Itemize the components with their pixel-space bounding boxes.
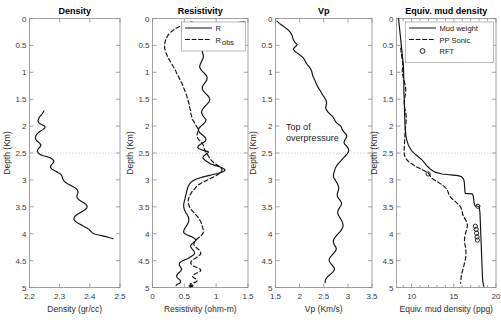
x-tick-label: 2.5	[318, 292, 330, 301]
x-tick-label: 2.5	[114, 292, 126, 301]
y-tick-label: 4	[22, 230, 27, 239]
x-tick-label: 0	[150, 292, 155, 301]
y-tick-label: 3	[268, 176, 273, 185]
legend-label: R	[216, 24, 222, 33]
y-tick-label: 4.5	[15, 257, 27, 266]
y-axis-label: Depth (Km)	[125, 131, 135, 175]
x-tick-label: 2.3	[54, 292, 66, 301]
x-tick-label: 20	[492, 292, 501, 301]
y-axis-label: Depth (Km)	[248, 131, 258, 175]
x-axis-label: Density (gr/cc)	[47, 304, 102, 314]
y-tick-label: 4.5	[261, 257, 273, 266]
y-tick-label: 4	[145, 230, 150, 239]
series-curve-r	[176, 22, 245, 286]
y-tick-label: 3	[389, 176, 394, 185]
legend-label: R	[216, 36, 222, 45]
panel-2: Resistivity00.511.522.533.544.5500.511.5…	[125, 6, 255, 314]
y-tick-label: 2.5	[261, 149, 273, 158]
x-tick-label: 2.4	[84, 292, 96, 301]
series-curve-pp-sonic	[401, 48, 468, 283]
y-tick-label: 1.5	[15, 95, 27, 104]
x-axis-label: Resistivity (ohm-m)	[164, 304, 237, 314]
y-tick-label: 2.5	[15, 149, 27, 158]
x-tick-label: 1.5	[242, 292, 254, 301]
y-tick-label: 1.5	[261, 95, 273, 104]
y-tick-label: 4.5	[138, 257, 150, 266]
y-tick-label: 0	[389, 15, 394, 24]
y-tick-label: 0.5	[261, 41, 273, 50]
y-tick-label: 0	[22, 15, 27, 24]
y-tick-label: 3.5	[261, 203, 273, 212]
panel-4: Equiv. mud density00.511.522.533.544.551…	[369, 6, 501, 314]
y-tick-label: 2	[268, 122, 273, 131]
series-curve-vp	[277, 21, 349, 282]
annotation-text: overpressure	[286, 133, 339, 143]
y-axis-label: Depth (Km)	[369, 131, 379, 175]
panel-title: Density	[58, 6, 91, 16]
well-log-figure: Density00.511.522.533.544.552.22.32.42.5…	[0, 0, 501, 329]
panel-frame	[153, 19, 249, 288]
panel-1: Density00.511.522.533.544.552.22.32.42.5…	[2, 6, 127, 314]
x-tick-label: 3	[346, 292, 351, 301]
legend-box	[182, 22, 246, 51]
legend: RRobs	[182, 22, 246, 51]
y-tick-label: 3	[145, 176, 150, 185]
y-tick-label: 0.5	[138, 41, 150, 50]
y-tick-label: 3	[22, 176, 27, 185]
panel-title: Equiv. mud density	[405, 6, 487, 16]
y-tick-label: 2.5	[138, 149, 150, 158]
annotation-text: Top of	[286, 122, 311, 132]
legend-label: RFT	[440, 47, 455, 56]
x-tick-label: 3.5	[366, 292, 378, 301]
y-tick-label: 0.5	[15, 41, 27, 50]
y-tick-label: 5	[389, 284, 394, 293]
y-tick-label: 1.5	[382, 95, 394, 104]
x-tick-label: 1.5	[270, 292, 282, 301]
y-tick-label: 3.5	[382, 203, 394, 212]
y-tick-label: 1	[22, 68, 27, 77]
y-tick-label: 4	[389, 230, 394, 239]
y-tick-label: 1	[389, 68, 394, 77]
y-tick-label: 3.5	[138, 203, 150, 212]
legend-label: PP Sonic	[440, 36, 471, 45]
legend-label-subscript: obs	[222, 38, 234, 47]
x-tick-label: 2	[297, 292, 302, 301]
y-tick-label: 3.5	[15, 203, 27, 212]
series-markers-rft	[426, 172, 480, 242]
y-tick-label: 2	[389, 122, 394, 131]
y-tick-label: 1.5	[138, 95, 150, 104]
y-tick-label: 4.5	[382, 257, 394, 266]
y-axis-label: Depth (Km)	[2, 131, 12, 175]
y-tick-label: 2	[22, 122, 27, 131]
x-tick-label: 0.5	[179, 292, 191, 301]
series-curve-r-obs	[165, 22, 222, 288]
x-tick-label: 15	[449, 292, 458, 301]
x-axis-label: Vp (Km/s)	[305, 304, 343, 314]
panel-title: Vp	[318, 6, 330, 16]
x-tick-label: 10	[407, 292, 416, 301]
y-tick-label: 0	[145, 15, 150, 24]
legend-label: Mud weight	[440, 24, 479, 33]
y-tick-label: 2.5	[382, 149, 394, 158]
y-tick-label: 0.5	[382, 41, 394, 50]
x-axis-label: Equiv. mud density (ppg)	[400, 304, 494, 314]
y-tick-label: 1	[145, 68, 150, 77]
y-tick-label: 1	[268, 68, 273, 77]
panel-3: Vp00.511.522.533.544.551.522.533.5Vp (Km…	[248, 6, 379, 314]
x-tick-label: 1	[214, 292, 219, 301]
y-tick-label: 0	[268, 15, 273, 24]
legend: Mud weightPP SonicRFT	[406, 22, 494, 63]
series-curve-density	[35, 111, 113, 239]
y-tick-label: 4	[268, 230, 273, 239]
panel-title: Resistivity	[178, 6, 223, 16]
y-tick-label: 2	[145, 122, 150, 131]
x-tick-label: 2.2	[24, 292, 36, 301]
